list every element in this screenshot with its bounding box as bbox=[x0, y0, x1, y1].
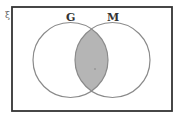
set-m-label: M bbox=[107, 11, 119, 24]
set-g-label: G bbox=[66, 11, 75, 24]
center-dot bbox=[94, 68, 95, 69]
universal-set-symbol: ξ bbox=[5, 10, 10, 20]
venn-diagram: ξ G M bbox=[0, 0, 175, 115]
